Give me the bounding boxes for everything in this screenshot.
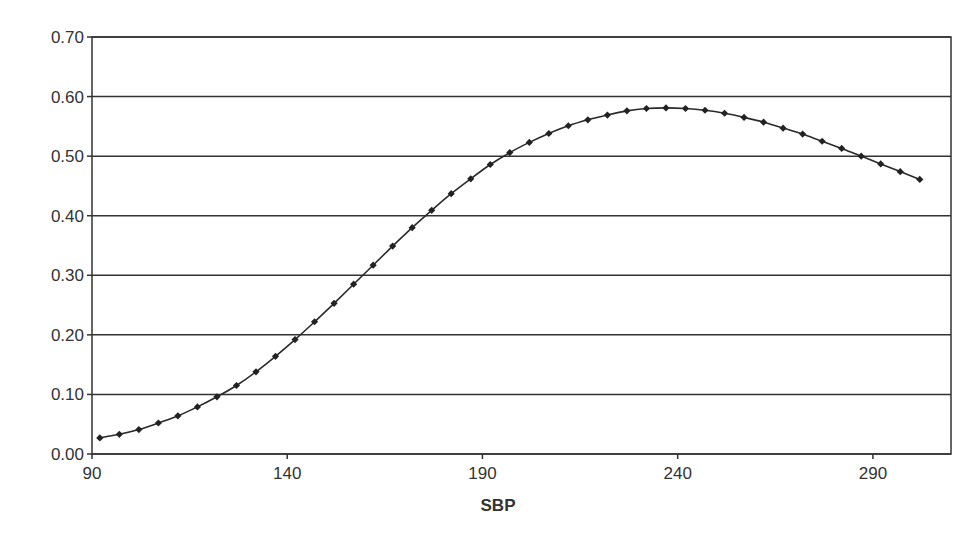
diamond-marker-icon bbox=[174, 412, 181, 419]
diamond-marker-icon bbox=[897, 168, 904, 175]
data-markers bbox=[96, 104, 923, 441]
diamond-marker-icon bbox=[701, 107, 708, 114]
diamond-marker-icon bbox=[135, 426, 142, 433]
y-tick-label: 0.00 bbox=[51, 445, 84, 464]
line-chart: 0.000.100.200.300.400.500.600.70 9014019… bbox=[0, 0, 979, 538]
diamond-marker-icon bbox=[96, 434, 103, 441]
diamond-marker-icon bbox=[623, 107, 630, 114]
y-tick-label: 0.30 bbox=[51, 266, 84, 285]
diamond-marker-icon bbox=[858, 153, 865, 160]
diamond-marker-icon bbox=[116, 431, 123, 438]
diamond-marker-icon bbox=[194, 403, 201, 410]
diamond-marker-icon bbox=[780, 125, 787, 132]
diamond-marker-icon bbox=[526, 139, 533, 146]
y-tick-label: 0.10 bbox=[51, 385, 84, 404]
x-tick-label: 190 bbox=[468, 464, 496, 483]
y-tick-label: 0.60 bbox=[51, 88, 84, 107]
diamond-marker-icon bbox=[799, 131, 806, 138]
diamond-marker-icon bbox=[760, 119, 767, 126]
diamond-marker-icon bbox=[155, 419, 162, 426]
diamond-marker-icon bbox=[545, 130, 552, 137]
diamond-marker-icon bbox=[819, 138, 826, 145]
diamond-marker-icon bbox=[838, 145, 845, 152]
plot-area-border bbox=[92, 37, 951, 454]
x-tick-label: 90 bbox=[83, 464, 102, 483]
data-line bbox=[100, 108, 920, 438]
gridlines bbox=[92, 37, 951, 454]
diamond-marker-icon bbox=[584, 116, 591, 123]
x-tick-label: 140 bbox=[273, 464, 301, 483]
x-tick-label: 290 bbox=[859, 464, 887, 483]
y-tick-label: 0.70 bbox=[51, 28, 84, 47]
y-tick-label: 0.50 bbox=[51, 147, 84, 166]
diamond-marker-icon bbox=[682, 105, 689, 112]
x-axis-title: SBP bbox=[481, 496, 516, 515]
diamond-marker-icon bbox=[643, 105, 650, 112]
x-axis: 90140190240290 bbox=[83, 454, 888, 483]
diamond-marker-icon bbox=[604, 111, 611, 118]
y-tick-label: 0.20 bbox=[51, 326, 84, 345]
diamond-marker-icon bbox=[662, 104, 669, 111]
diamond-marker-icon bbox=[565, 122, 572, 129]
diamond-marker-icon bbox=[916, 176, 923, 183]
diamond-marker-icon bbox=[721, 110, 728, 117]
diamond-marker-icon bbox=[740, 114, 747, 121]
diamond-marker-icon bbox=[877, 160, 884, 167]
y-tick-label: 0.40 bbox=[51, 207, 84, 226]
diamond-marker-icon bbox=[506, 149, 513, 156]
x-tick-label: 240 bbox=[663, 464, 691, 483]
y-axis: 0.000.100.200.300.400.500.600.70 bbox=[51, 28, 92, 464]
